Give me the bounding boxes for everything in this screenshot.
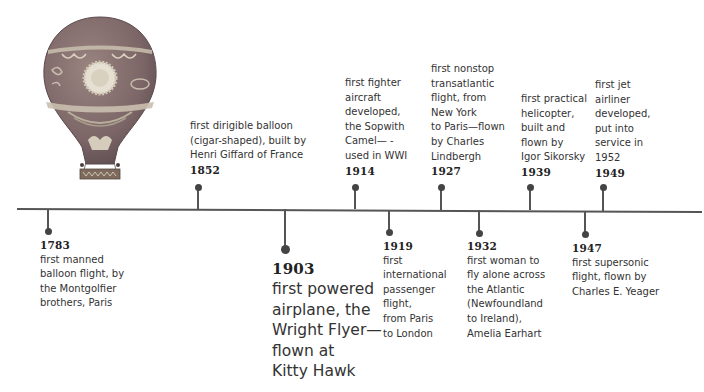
event-description: first dirigible balloon (cigar-shaped), … (190, 119, 306, 163)
event-1914: first fighter aircraft developed, the So… (345, 76, 407, 178)
event-year: 1783 (40, 238, 124, 253)
marker-dot-1914 (352, 184, 359, 191)
tick-1932 (478, 210, 480, 232)
event-1949: first jet airliner developed, put into s… (595, 78, 651, 180)
event-year: 1932 (467, 239, 545, 254)
marker-dot-1927 (438, 184, 445, 191)
event-1932: 1932 first woman to fly alone across the… (467, 239, 545, 341)
marker-dot-1949 (600, 184, 607, 191)
event-1783: 1783 first manned balloon flight, by the… (40, 238, 124, 311)
event-year: 1927 (431, 164, 505, 179)
marker-dot-1903 (281, 245, 290, 254)
tick-1939 (529, 188, 531, 210)
marker-dot-1783 (45, 228, 52, 235)
marker-dot-1932 (476, 230, 483, 237)
marker-dot-1947 (582, 231, 589, 238)
marker-dot-1939 (527, 184, 534, 191)
tick-1949 (602, 189, 604, 211)
tick-1903 (284, 209, 286, 249)
tick-1947 (584, 211, 586, 233)
event-description: first jet airliner developed, put into s… (595, 78, 651, 166)
event-year: 1914 (345, 164, 407, 179)
timeline-axis (17, 208, 702, 213)
event-year: 1949 (595, 166, 651, 181)
event-description: first international passenger flight, fr… (383, 254, 447, 342)
event-1852: first dirigible balloon (cigar-shaped), … (190, 119, 306, 177)
event-1947: 1947 first supersonic flight, flown by C… (572, 241, 659, 299)
event-description: first supersonic flight, flown by Charle… (572, 256, 659, 300)
event-description: first woman to fly alone across the Atla… (467, 254, 545, 342)
event-description: first practical helicopter, built and fl… (521, 92, 587, 165)
event-1939: first practical helicopter, built and fl… (521, 92, 587, 180)
marker-dot-1852 (195, 184, 202, 191)
event-description: first fighter aircraft developed, the So… (345, 76, 407, 164)
event-1927: first nonstop transatlantic flight, from… (431, 62, 505, 179)
event-description: first powered airplane, the Wright Flyer… (272, 279, 382, 382)
tick-1927 (440, 188, 442, 210)
event-year: 1939 (521, 165, 587, 180)
event-1903: 1903 first powered airplane, the Wright … (272, 259, 382, 382)
event-year: 1947 (572, 241, 659, 256)
event-description: first manned balloon flight, by the Mont… (40, 253, 124, 311)
event-description: first nonstop transatlantic flight, from… (431, 62, 505, 164)
event-year: 1852 (190, 163, 306, 178)
event-year: 1903 (272, 259, 382, 279)
marker-dot-1919 (386, 229, 393, 236)
tick-1852 (197, 188, 199, 209)
event-year: 1919 (383, 239, 447, 254)
tick-1914 (354, 188, 356, 209)
hot-air-balloon-icon (40, 12, 160, 182)
event-1919: 1919 first international passenger fligh… (383, 239, 447, 341)
